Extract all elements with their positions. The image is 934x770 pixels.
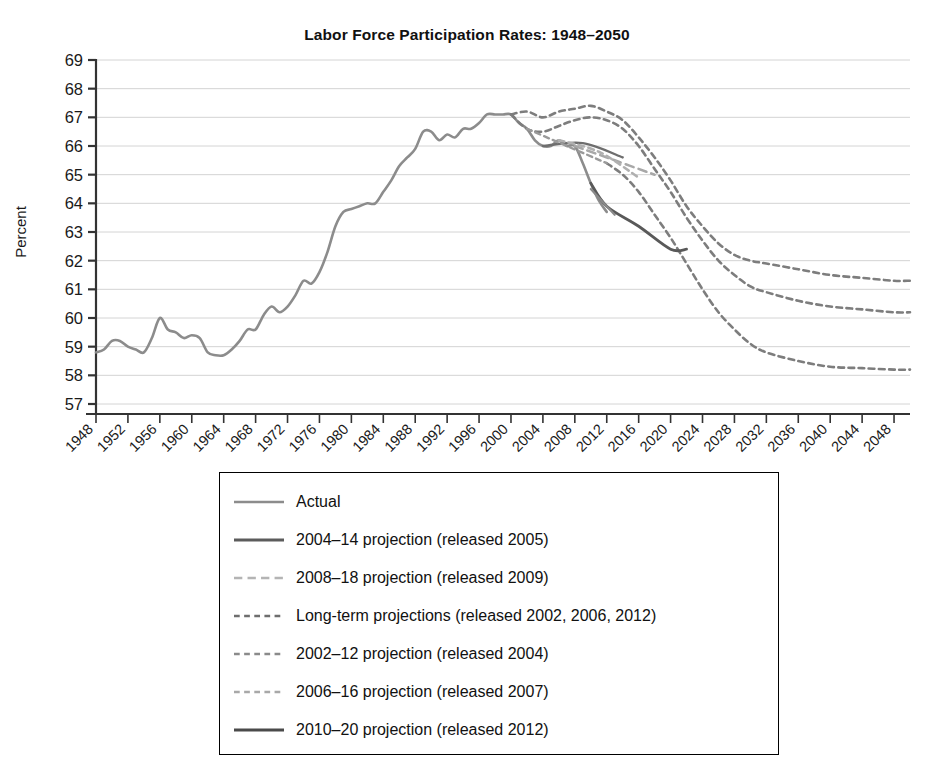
series-line — [96, 114, 607, 356]
legend-line-swatch — [233, 724, 285, 736]
y-axis-tick-label: 66 — [65, 137, 83, 155]
legend-line-swatch — [233, 572, 285, 584]
legend-line-swatch — [233, 686, 285, 698]
legend-line-swatch — [233, 534, 285, 546]
legend-item-label: Actual — [296, 494, 340, 510]
x-axis-tick-label: 1992 — [413, 421, 447, 455]
x-axis-tick-label: 2048 — [860, 421, 894, 455]
legend-list: Actual2004–14 projection (released 2005)… — [220, 473, 778, 754]
x-axis-tick-label: 1956 — [126, 421, 160, 455]
legend-item[interactable]: Long-term projections (released 2002, 20… — [220, 597, 778, 635]
legend-item[interactable]: Actual — [220, 483, 778, 521]
x-axis-tick-label: 2012 — [573, 421, 607, 455]
y-axis-tick-label: 68 — [65, 80, 83, 98]
series-line — [511, 106, 910, 281]
y-axis-tick-label: 58 — [65, 366, 83, 384]
legend-item[interactable]: 2006–16 projection (released 2007) — [220, 673, 778, 711]
x-axis-tick-label: 2044 — [828, 421, 862, 455]
y-axis-tick-label: 61 — [65, 280, 83, 298]
y-axis-tick-label: 65 — [65, 166, 83, 184]
y-axis-tick-label: 57 — [65, 395, 83, 413]
x-axis-tick-label: 2016 — [605, 421, 639, 455]
x-axis-tick-label: 1976 — [285, 421, 319, 455]
legend-line-swatch — [233, 648, 285, 660]
x-axis-tick-label: 1952 — [94, 421, 128, 455]
x-axis-tick-label: 1968 — [222, 421, 256, 455]
legend-line-swatch — [233, 610, 285, 622]
chart-container: Labor Force Participation Rates: 1948–20… — [0, 0, 934, 770]
x-axis-tick-label: 1988 — [381, 421, 415, 455]
legend-item-label: 2002–12 projection (released 2004) — [296, 646, 549, 662]
y-axis-tick-label: 64 — [65, 194, 83, 212]
x-axis-tick-label: 2008 — [541, 421, 575, 455]
y-axis-tick-label: 67 — [65, 108, 83, 126]
legend-line-swatch — [233, 496, 285, 508]
y-axis-tick-label: 59 — [65, 338, 83, 356]
x-axis-tick-label: 2032 — [732, 421, 766, 455]
y-axis-tick-label: 62 — [65, 252, 83, 270]
legend-item-label: 2008–18 projection (released 2009) — [296, 570, 549, 586]
chart-legend: Actual2004–14 projection (released 2005)… — [219, 472, 779, 755]
series-line — [591, 189, 615, 215]
y-axis-tick-label: 60 — [65, 309, 83, 327]
legend-item-label: 2010–20 projection (released 2012) — [296, 722, 549, 738]
legend-item[interactable]: 2010–20 projection (released 2012) — [220, 711, 778, 749]
y-axis-tick-label: 69 — [65, 51, 83, 69]
legend-item-label: 2004–14 projection (released 2005) — [296, 532, 549, 548]
legend-item[interactable]: 2002–12 projection (released 2004) — [220, 635, 778, 673]
legend-item-label: Long-term projections (released 2002, 20… — [296, 608, 656, 624]
x-axis-tick-label: 1972 — [254, 421, 288, 455]
legend-item[interactable]: 2004–14 projection (released 2005) — [220, 521, 778, 559]
legend-item-label: 2006–16 projection (released 2007) — [296, 684, 549, 700]
x-axis-tick-label: 2024 — [669, 421, 703, 455]
series-line — [607, 163, 910, 370]
y-axis-tick-label: 63 — [65, 223, 83, 241]
chart-plot-area: 69686766656463626160595857Percent1948195… — [0, 0, 934, 470]
x-axis-tick-label: 2020 — [637, 421, 671, 455]
x-axis-tick-label: 1960 — [158, 421, 192, 455]
y-axis-title: Percent — [12, 205, 29, 258]
x-axis-tick-label: 2028 — [700, 421, 734, 455]
x-axis-tick-label: 1996 — [445, 421, 479, 455]
x-axis-tick-label: 2004 — [509, 421, 543, 455]
x-axis-tick-label: 2040 — [796, 421, 830, 455]
x-axis-tick-label: 1980 — [317, 421, 351, 455]
x-axis-tick-label: 2036 — [764, 421, 798, 455]
x-axis-tick-label: 2000 — [477, 421, 511, 455]
x-axis-tick-label: 1964 — [190, 421, 224, 455]
x-axis-tick-label: 1984 — [349, 421, 383, 455]
legend-item[interactable]: 2008–18 projection (released 2009) — [220, 559, 778, 597]
x-axis-tick-label: 1948 — [62, 421, 96, 455]
